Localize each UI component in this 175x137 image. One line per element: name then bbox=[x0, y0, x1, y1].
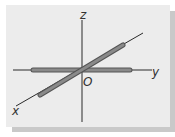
x-axis-label: x bbox=[11, 104, 20, 118]
diagram-frame: z y x O bbox=[0, 0, 175, 137]
y-axis-label: y bbox=[151, 65, 160, 79]
z-axis-label: z bbox=[79, 8, 87, 22]
coordinate-axes: z y x O bbox=[0, 0, 175, 137]
origin-label: O bbox=[83, 75, 92, 89]
